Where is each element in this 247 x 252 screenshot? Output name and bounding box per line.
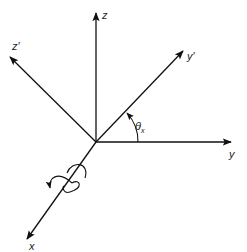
axis-label-y-prime: y′: [186, 50, 196, 62]
angle-label: θx: [135, 120, 145, 134]
angle-subscript: x: [140, 127, 145, 134]
rotation-arrow-icon: [50, 164, 86, 192]
axis-label-z-prime: z′: [11, 40, 21, 52]
axis-label-y: y: [228, 148, 236, 160]
axis-label-x: x: [28, 240, 35, 252]
rotation-diagram: z z′ y′ y x θx: [0, 0, 247, 252]
axis-x: [27, 142, 96, 239]
axis-label-z: z: [101, 9, 108, 21]
axis-z-prime: [10, 57, 96, 142]
